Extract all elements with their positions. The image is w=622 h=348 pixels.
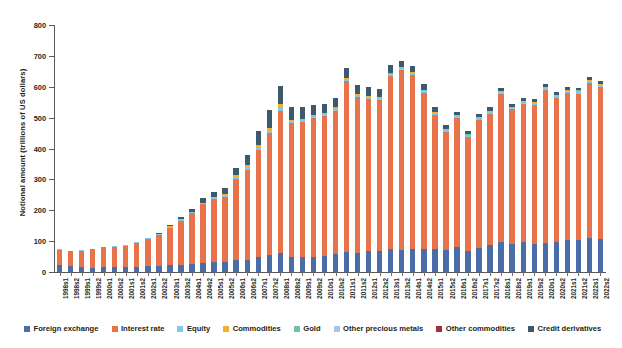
bar-segment <box>267 133 272 254</box>
bar-column[interactable] <box>443 125 448 272</box>
legend-item[interactable]: Interest rate <box>112 324 165 333</box>
bar-column[interactable] <box>355 85 360 272</box>
bar-segment <box>233 168 238 176</box>
bar-segment <box>377 251 382 272</box>
bar-column[interactable] <box>245 155 250 272</box>
bar-column[interactable] <box>532 99 537 272</box>
bar-column[interactable] <box>79 250 84 272</box>
x-tick-mark <box>82 272 83 276</box>
legend-item[interactable]: Other commodities <box>436 324 515 333</box>
bar-segment <box>355 253 360 272</box>
bar-column[interactable] <box>300 107 305 272</box>
bar-column[interactable] <box>68 251 73 272</box>
bar-column[interactable] <box>344 68 349 272</box>
x-tick-label: 2004s2 <box>206 278 213 299</box>
x-tick-mark <box>137 272 138 276</box>
bar-column[interactable] <box>167 225 172 272</box>
bar-column[interactable] <box>587 77 592 272</box>
bar-column[interactable] <box>289 107 294 272</box>
bar-column[interactable] <box>322 104 327 272</box>
x-tick-label: 2000s1 <box>106 278 113 299</box>
bar-column[interactable] <box>134 242 139 272</box>
legend-label: Equity <box>187 324 210 333</box>
bar-column[interactable] <box>366 87 371 272</box>
bar-segment <box>532 105 537 244</box>
bar-column[interactable] <box>509 104 514 272</box>
x-tick-mark <box>269 272 270 276</box>
bar-column[interactable] <box>565 87 570 272</box>
bar-segment <box>554 98 559 242</box>
legend-item[interactable]: Other precious metals <box>334 324 424 333</box>
legend-item[interactable]: Equity <box>177 324 210 333</box>
bar-segment <box>333 98 338 107</box>
x-tick-mark <box>589 272 590 276</box>
x-tick-mark <box>435 272 436 276</box>
bar-column[interactable] <box>101 247 106 272</box>
bar-column[interactable] <box>543 84 548 272</box>
bar-column[interactable] <box>278 86 283 272</box>
bar-column[interactable] <box>487 107 492 272</box>
bar-segment <box>377 89 382 97</box>
bar-column[interactable] <box>476 114 481 272</box>
chart-legend: Foreign exchangeInterest rateEquityCommo… <box>24 324 604 333</box>
bar-column[interactable] <box>521 98 526 272</box>
bar-segment <box>421 249 426 272</box>
x-tick-label: 2006s2 <box>250 278 257 299</box>
bar-column[interactable] <box>200 198 205 272</box>
bar-segment <box>366 87 371 95</box>
x-tick-mark <box>181 272 182 276</box>
x-tick-label: 2007s2 <box>272 278 279 299</box>
bar-segment <box>565 93 570 240</box>
bar-column[interactable] <box>388 65 393 272</box>
bar-segment <box>432 249 437 272</box>
bar-column[interactable] <box>410 66 415 272</box>
bar-column[interactable] <box>112 246 117 272</box>
x-tick-label: 2004s1 <box>195 278 202 299</box>
x-tick-label: 1999s1 <box>84 278 91 299</box>
x-tick-mark <box>424 272 425 276</box>
legend-item[interactable]: Gold <box>294 324 321 333</box>
bar-column[interactable] <box>57 249 62 272</box>
legend-item[interactable]: Credit derivatives <box>528 324 601 333</box>
bar-column[interactable] <box>145 238 150 272</box>
bar-column[interactable] <box>123 245 128 272</box>
x-tick-label: 2021s2 <box>581 278 588 299</box>
bar-column[interactable] <box>498 88 503 272</box>
x-tick-label: 1999s2 <box>95 278 102 299</box>
bar-segment <box>145 239 150 267</box>
bar-segment <box>278 253 283 272</box>
bar-column[interactable] <box>421 84 426 272</box>
x-tick-label: 2009s2 <box>316 278 323 299</box>
bar-column[interactable] <box>465 131 470 272</box>
bar-column[interactable] <box>267 110 272 272</box>
bar-column[interactable] <box>256 131 261 272</box>
bar-segment <box>598 87 603 238</box>
y-tick-label: 300 <box>34 175 46 184</box>
bar-column[interactable] <box>598 81 603 272</box>
bar-column[interactable] <box>399 61 404 272</box>
bar-column[interactable] <box>432 107 437 272</box>
bar-column[interactable] <box>189 209 194 272</box>
bar-segment <box>443 250 448 272</box>
bar-column[interactable] <box>311 105 316 272</box>
x-tick-label: 2010s2 <box>338 278 345 299</box>
bar-column[interactable] <box>233 168 238 272</box>
bar-segment <box>410 249 415 272</box>
bar-column[interactable] <box>454 112 459 273</box>
bar-column[interactable] <box>333 98 338 272</box>
legend-item[interactable]: Foreign exchange <box>24 324 99 333</box>
x-tick-mark <box>336 272 337 276</box>
bar-column[interactable] <box>90 249 95 272</box>
bar-column[interactable] <box>222 188 227 272</box>
bar-column[interactable] <box>554 92 559 272</box>
x-tick-mark <box>534 272 535 276</box>
legend-item[interactable]: Commodities <box>223 324 281 333</box>
bar-segment <box>487 245 492 272</box>
bar-column[interactable] <box>377 89 382 272</box>
x-tick-label: 2016s1 <box>460 278 467 299</box>
y-tick-label: 500 <box>34 113 46 122</box>
bar-column[interactable] <box>211 192 216 272</box>
bar-column[interactable] <box>576 88 581 272</box>
bar-column[interactable] <box>156 233 161 272</box>
bar-column[interactable] <box>178 217 183 272</box>
